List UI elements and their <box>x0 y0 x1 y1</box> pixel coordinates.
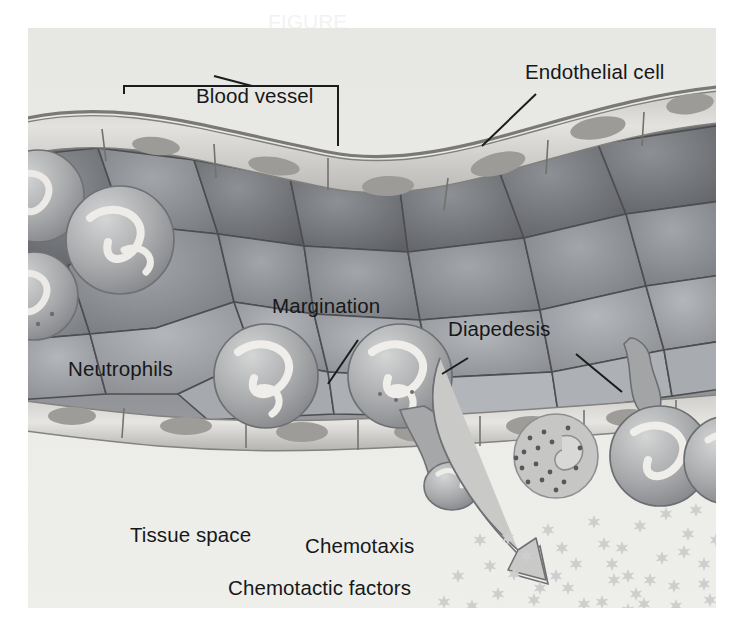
figure-canvas: FIGURE <box>0 0 744 635</box>
label-tissue-space: Tissue space <box>130 523 251 547</box>
neutrophil <box>66 186 174 294</box>
illustration-plate <box>28 28 716 608</box>
granulocyte-in-tissue <box>514 414 598 498</box>
label-chemotactic-factors: Chemotactic factors <box>228 576 411 600</box>
label-blood-vessel: Blood vessel <box>196 84 313 108</box>
label-endothelial-cell: Endothelial cell <box>525 60 665 84</box>
label-diapedesis: Diapedesis <box>448 317 550 341</box>
illustration-svg <box>28 28 716 608</box>
label-neutrophils: Neutrophils <box>68 357 173 381</box>
neutrophil-marginating <box>214 324 318 428</box>
label-margination: Margination <box>272 294 380 318</box>
label-chemotaxis: Chemotaxis <box>305 534 414 558</box>
